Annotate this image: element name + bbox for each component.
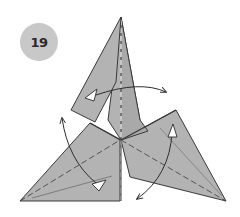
origami-diagram: 19 bbox=[0, 0, 240, 217]
bottom-left-flap bbox=[20, 123, 120, 201]
fold-diagram-svg bbox=[0, 0, 240, 217]
